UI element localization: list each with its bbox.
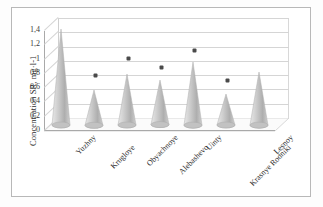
asterisk-marker xyxy=(159,65,164,70)
y-tick-label: 0,6 xyxy=(30,83,40,91)
x-tick-label: Krugloye xyxy=(108,143,136,171)
x-axis-labels: YuzhnyKrugloyeObyachnoyeAlebashevoUintyK… xyxy=(44,131,289,201)
x-tick-label: Krasnye Rodniki xyxy=(247,143,292,188)
plot-area: 00,20,40,60,811,21,4 xyxy=(44,18,289,131)
asterisk-marker xyxy=(93,73,98,78)
bar-cone xyxy=(51,29,71,130)
y-tick-label: 0 xyxy=(36,126,40,134)
bar-cone xyxy=(183,62,203,130)
gridline xyxy=(58,47,289,48)
asterisk-marker xyxy=(126,56,131,61)
y-tick-label: 1,2 xyxy=(30,40,40,48)
x-tick-label: Yuzhny xyxy=(74,133,98,157)
x-tick-label: Alebashevo xyxy=(177,143,210,176)
asterisk-marker xyxy=(225,78,230,83)
y-tick-label: 0,8 xyxy=(30,69,40,77)
bar-cone xyxy=(216,94,236,130)
x-tick-label: Obyachnoye xyxy=(144,133,179,168)
bar-cone xyxy=(84,90,104,130)
chart-figure: Concentration SR, mg·l-1 00,20,40,60,811… xyxy=(0,0,323,207)
gridline xyxy=(58,61,289,62)
bar-cone xyxy=(117,74,137,130)
y-tick-label: 1 xyxy=(36,55,40,63)
y-tick-label: 0,2 xyxy=(30,112,40,120)
gridline xyxy=(58,32,289,33)
gridline xyxy=(58,18,289,19)
y-tick-label: 0,4 xyxy=(30,97,40,105)
bar-cone xyxy=(249,72,269,130)
y-tick-label: 1,4 xyxy=(30,26,40,34)
bar-cone xyxy=(150,80,170,130)
asterisk-marker xyxy=(192,48,197,53)
